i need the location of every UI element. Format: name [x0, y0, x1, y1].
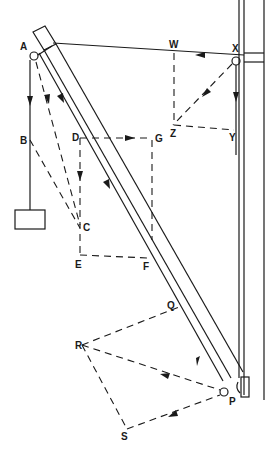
wall	[239, 0, 264, 400]
label-X: X	[232, 43, 239, 54]
force-parallelogram-DEFG	[77, 135, 152, 258]
label-C: C	[83, 222, 90, 233]
label-E: E	[75, 259, 82, 270]
boom	[33, 26, 249, 397]
label-A: A	[20, 41, 27, 52]
label-F: F	[143, 261, 149, 272]
label-S: S	[121, 431, 128, 442]
label-R: R	[75, 340, 83, 351]
forces-at-A	[27, 62, 80, 228]
label-G: G	[155, 133, 163, 144]
label-Q: Q	[167, 300, 175, 311]
hinge-P	[220, 388, 228, 396]
pivot-A	[30, 52, 38, 60]
label-Z: Z	[170, 128, 176, 139]
label-B: B	[20, 135, 27, 146]
tie-cable	[53, 43, 244, 55]
label-D: D	[72, 132, 79, 143]
label-W: W	[169, 39, 179, 50]
crane-force-diagram: A B C D E F G W X Z Y Q R S P	[0, 0, 279, 450]
label-Y: Y	[229, 132, 236, 143]
forces-at-P	[82, 307, 220, 429]
label-P: P	[229, 396, 236, 407]
